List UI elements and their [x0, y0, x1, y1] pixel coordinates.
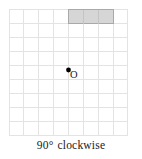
caption-angle: 90°	[37, 139, 54, 151]
figure-caption: 90°clockwise	[0, 139, 142, 151]
shaded-rectangle	[69, 10, 114, 24]
center-of-rotation-label: O	[70, 70, 78, 81]
grid-svg	[9, 9, 128, 136]
caption-direction: clockwise	[57, 139, 105, 151]
grid-container	[9, 9, 128, 136]
rotation-figure: O 90°clockwise	[0, 0, 142, 159]
